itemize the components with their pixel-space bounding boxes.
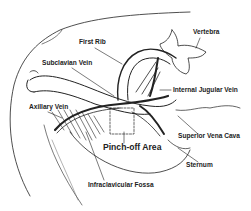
superior-vena-cava — [140, 106, 164, 134]
label-superior-vena-cava: Superior Vena Cava — [178, 133, 240, 140]
label-subclavian-vein: Subclavian Vein — [42, 60, 92, 67]
label-sternum: Sternum — [186, 162, 213, 169]
label-internal-jugular-vein: Internal Jugular Vein — [173, 87, 238, 94]
first-rib — [118, 49, 176, 100]
label-first-rib: First Rib — [79, 39, 106, 46]
anatomy-diagram: Vertebra First Rib Subclavian Vein Inter… — [0, 0, 251, 211]
label-axillary-vein: Axillary Vein — [29, 104, 68, 111]
subclavian-vein — [55, 96, 168, 130]
label-pinch-off-area: Pinch-off Area — [103, 143, 161, 152]
label-infraclavicular-fossa: Infraclavicular Fossa — [88, 182, 154, 189]
label-vertebra: Vertebra — [193, 29, 219, 36]
